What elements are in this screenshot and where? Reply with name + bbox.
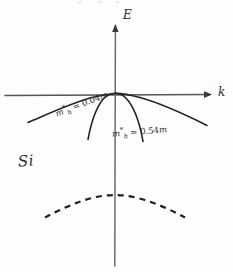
e-axis-arrowhead [112,24,119,32]
energy-axis [112,24,119,266]
heavy-hole-mass-value: 0.54 [140,125,160,137]
heavy-hole-mass-equals: = [130,127,138,138]
stray-mark-3 [116,2,119,4]
light-hole-mass-subscript: h [66,108,73,117]
heavy-hole-mass-unit: m [159,124,168,135]
figure-canvas: E k Si m*h = 0.04m m*h = 0.54m [0,0,233,272]
light-hole-mass-equals: = [71,100,81,112]
wavevector-axis-label: k [218,85,225,99]
stray-mark-1 [78,2,82,4]
heavy-hole-mass-subscript: h [123,132,128,140]
stray-mark-2 [98,1,101,3]
material-label: Si [17,151,34,170]
energy-axis-label: E [123,8,132,22]
k-axis-arrowhead [204,91,212,98]
e-axis-line [115,26,116,266]
stray-pencil-marks [78,1,119,3]
